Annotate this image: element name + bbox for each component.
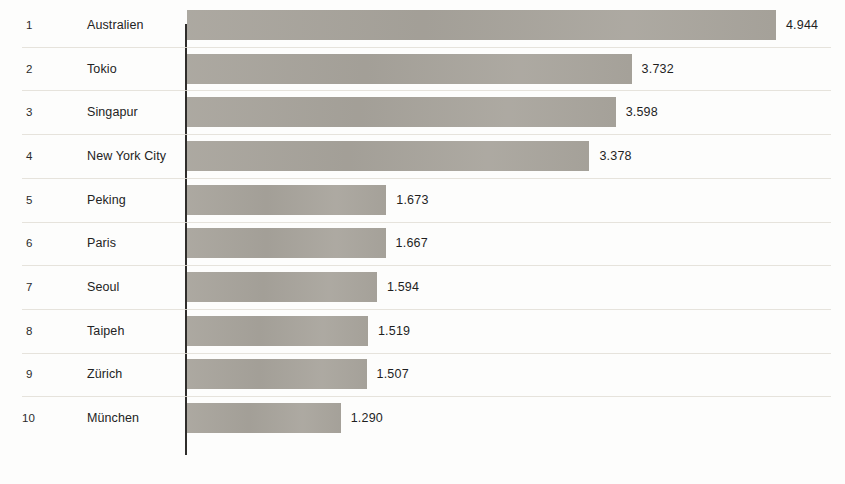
row-bar-group: 3.378 bbox=[187, 141, 632, 171]
row-bar-group: 1.290 bbox=[187, 403, 383, 433]
value-bar bbox=[187, 272, 377, 302]
table-row: 7Seoul1.594 bbox=[0, 265, 845, 309]
row-bar-group: 1.507 bbox=[187, 359, 409, 389]
value-bar bbox=[187, 316, 368, 346]
value-label: 1.519 bbox=[378, 324, 410, 338]
row-rank: 3 bbox=[26, 106, 33, 118]
value-bar bbox=[187, 185, 386, 215]
table-row: 5Peking1.673 bbox=[0, 178, 845, 222]
table-row: 2Tokio3.732 bbox=[0, 47, 845, 91]
row-bar-group: 1.673 bbox=[187, 185, 429, 215]
value-label: 3.732 bbox=[642, 62, 674, 76]
table-row: 1Australien4.944 bbox=[0, 3, 845, 47]
value-label: 1.667 bbox=[396, 236, 428, 250]
table-row: 6Paris1.667 bbox=[0, 222, 845, 266]
row-rank: 5 bbox=[26, 194, 33, 206]
row-bar-group: 1.519 bbox=[187, 316, 410, 346]
row-bar-group: 1.594 bbox=[187, 272, 419, 302]
value-bar bbox=[187, 228, 386, 258]
table-row: 9Zürich1.507 bbox=[0, 353, 845, 397]
value-label: 3.378 bbox=[599, 149, 631, 163]
row-bar-group: 3.732 bbox=[187, 54, 674, 84]
row-rank: 7 bbox=[26, 281, 33, 293]
value-bar bbox=[187, 10, 776, 40]
row-rank: 4 bbox=[26, 150, 33, 162]
row-rank: 9 bbox=[26, 368, 33, 380]
row-category-label: Tokio bbox=[87, 62, 117, 76]
table-row: 10München1.290 bbox=[0, 396, 845, 440]
value-bar bbox=[187, 403, 341, 433]
value-bar bbox=[187, 141, 589, 171]
row-category-label: Seoul bbox=[87, 280, 119, 294]
row-category-label: Singapur bbox=[87, 105, 138, 119]
row-rank: 2 bbox=[26, 63, 33, 75]
row-category-label: Australien bbox=[87, 18, 144, 32]
row-category-label: München bbox=[87, 411, 139, 425]
row-category-label: New York City bbox=[87, 149, 166, 163]
table-row: 4New York City3.378 bbox=[0, 134, 845, 178]
row-rank: 1 bbox=[26, 19, 33, 31]
row-rank: 6 bbox=[26, 237, 33, 249]
value-label: 1.594 bbox=[387, 280, 419, 294]
row-bar-group: 4.944 bbox=[187, 10, 818, 40]
row-bar-group: 3.598 bbox=[187, 97, 658, 127]
row-category-label: Taipeh bbox=[87, 324, 124, 338]
row-rank: 8 bbox=[26, 325, 33, 337]
row-bar-group: 1.667 bbox=[187, 228, 428, 258]
value-label: 4.944 bbox=[786, 18, 818, 32]
value-bar bbox=[187, 359, 367, 389]
value-label: 1.673 bbox=[396, 193, 428, 207]
table-row: 3Singapur3.598 bbox=[0, 90, 845, 134]
value-label: 1.290 bbox=[351, 411, 383, 425]
row-category-label: Peking bbox=[87, 193, 126, 207]
table-row: 8Taipeh1.519 bbox=[0, 309, 845, 353]
value-label: 1.507 bbox=[377, 367, 409, 381]
row-rank: 10 bbox=[22, 412, 35, 424]
value-bar bbox=[187, 54, 632, 84]
ranked-bar-chart: 1Australien4.9442Tokio3.7323Singapur3.59… bbox=[0, 0, 845, 484]
value-label: 3.598 bbox=[626, 105, 658, 119]
row-category-label: Zürich bbox=[87, 367, 122, 381]
row-category-label: Paris bbox=[87, 236, 116, 250]
value-bar bbox=[187, 97, 616, 127]
